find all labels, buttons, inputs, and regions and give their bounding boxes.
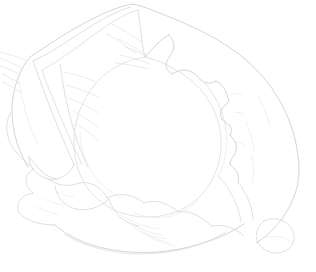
outer-leaf-silhouette: [7, 4, 299, 243]
leaf-vein-lines: [0, 24, 151, 140]
inner-head-contour: [74, 57, 221, 218]
top-wrapper-leaf: [33, 7, 169, 70]
cabbage-line-drawing: [0, 0, 316, 272]
drawing-canvas: Faint pencil contour sketch of a head of…: [0, 0, 316, 272]
right-wrapper-leaf: [166, 35, 239, 182]
left-wrapper-leaf: [18, 61, 88, 179]
